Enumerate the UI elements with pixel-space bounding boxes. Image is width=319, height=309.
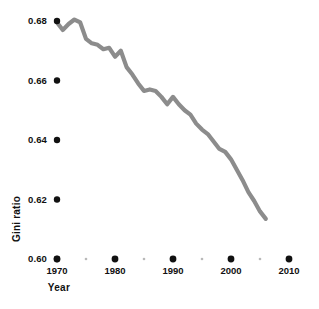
x-major-tick-dot [170, 256, 177, 263]
gini-ratio-line-chart: 0.680.660.640.620.60 1970198019902000201… [0, 0, 319, 309]
x-axis-tick-markers [54, 256, 293, 263]
x-tick-label: 1990 [153, 266, 193, 276]
x-major-tick-dot [228, 256, 235, 263]
x-major-tick-dot [112, 256, 119, 263]
y-tick-dot [54, 196, 60, 202]
x-minor-tick-dot [201, 258, 204, 261]
x-minor-tick-dot [143, 258, 146, 261]
y-tick-label: 0.68 [0, 16, 47, 26]
x-major-tick-dot [286, 256, 293, 263]
x-tick-label: 2010 [269, 266, 309, 276]
x-axis-title: Year [33, 283, 85, 293]
y-axis-title: Gini ratio [12, 186, 22, 252]
y-tick-label: 0.64 [0, 135, 47, 145]
series-line-group [57, 20, 266, 219]
y-tick-dot [54, 137, 60, 143]
x-tick-label: 2000 [211, 266, 251, 276]
x-major-tick-dot [54, 256, 61, 263]
x-minor-tick-dot [85, 258, 88, 261]
gini-ratio-line [57, 20, 266, 219]
y-tick-label: 0.60 [0, 254, 47, 264]
x-minor-tick-dot [259, 258, 262, 261]
plot-area [0, 0, 319, 309]
y-tick-dot [54, 18, 60, 24]
y-axis-tick-markers [54, 18, 60, 262]
y-tick-dot [54, 77, 60, 83]
y-tick-label: 0.66 [0, 76, 47, 86]
x-tick-label: 1980 [95, 266, 135, 276]
y-tick-label: 0.62 [0, 195, 47, 205]
x-tick-label: 1970 [37, 266, 77, 276]
